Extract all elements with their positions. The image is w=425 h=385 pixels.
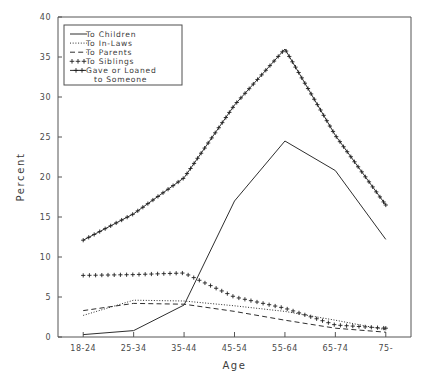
series-path [83, 303, 386, 332]
chart-series [81, 49, 388, 335]
legend-label: To Parents [85, 48, 132, 57]
legend-label: To Children [85, 30, 136, 39]
legend-label: To Siblings [85, 57, 134, 66]
series-path [83, 141, 386, 335]
x-axis-tick-label: 25-34 [121, 344, 147, 353]
series-to-children [83, 141, 386, 335]
x-axis-title: Age [222, 360, 246, 371]
y-axis-tick-label: 10 [40, 253, 51, 262]
line-chart-canvas: 051015202530354018-2425-3435-4445-5455-6… [0, 0, 425, 385]
chart-figure: 051015202530354018-2425-3435-4445-5455-6… [0, 0, 425, 385]
y-axis-tick-label: 5 [45, 293, 51, 302]
y-axis-tick-label: 25 [40, 133, 51, 142]
legend-label: Gave or Loaned [86, 66, 157, 75]
y-axis-tick-label: 0 [45, 333, 51, 342]
chart-legend[interactable]: To ChildrenTo In-LawsTo ParentsTo Siblin… [64, 25, 182, 85]
series-to-parents [83, 303, 386, 332]
x-axis-tick-label: 45-54 [222, 344, 248, 353]
x-axis-tick-label: 55-64 [272, 344, 298, 353]
y-axis-tick-label: 15 [40, 213, 51, 222]
x-axis-tick-label: 18-24 [70, 344, 96, 353]
legend-label: To In-Laws [85, 39, 133, 48]
y-axis-tick-label: 20 [40, 173, 51, 182]
legend-entry[interactable]: to Someone [94, 75, 147, 84]
legend-label: to Someone [94, 75, 147, 84]
legend-sample-plus-marks [70, 59, 87, 64]
x-axis-tick-label: 75- [378, 344, 393, 353]
y-axis-tick-label: 30 [40, 93, 51, 102]
y-axis-tick-label: 40 [40, 13, 51, 22]
x-axis-tick-label: 65-74 [322, 344, 348, 353]
y-axis-tick-label: 35 [40, 53, 51, 62]
x-axis-tick-label: 35-44 [171, 344, 197, 353]
y-axis-title: Percent [15, 153, 26, 202]
